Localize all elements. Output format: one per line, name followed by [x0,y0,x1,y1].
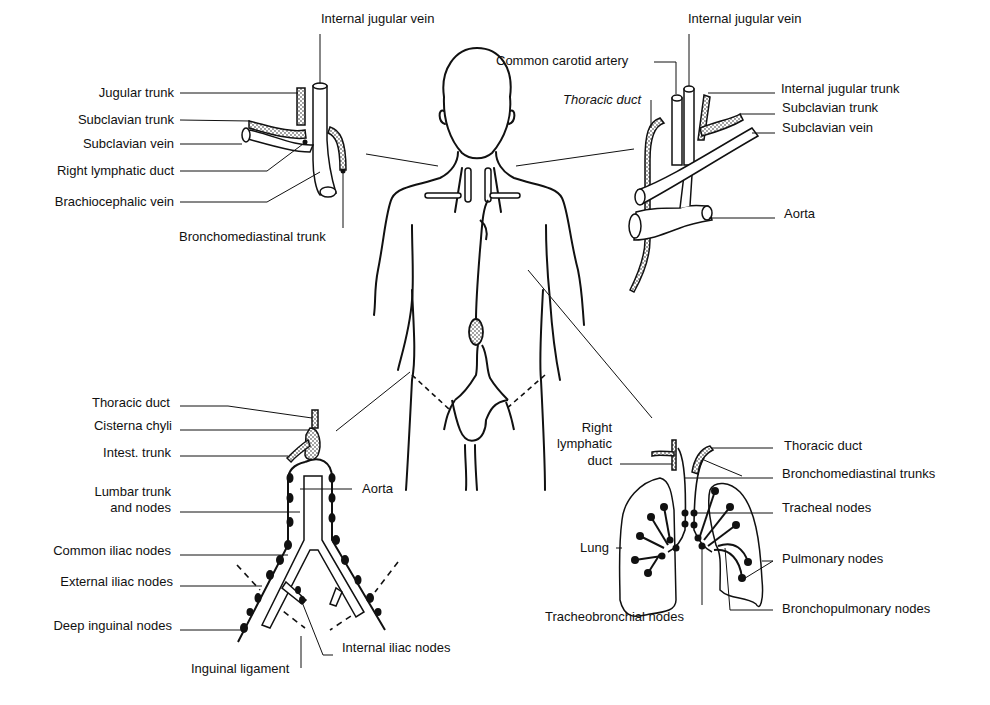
label-lumbar-trunk: Lumbar trunk [94,484,171,499]
label-internal-jugular-trunk: Internal jugular trunk [781,81,900,96]
label-tracheal-nodes: Tracheal nodes [782,500,871,515]
label-thoracic-duct-thorax: Thoracic duct [784,438,862,453]
label-subclavian-vein-right: Subclavian vein [83,136,174,151]
pointer-lines [336,149,652,431]
label-aorta-arch: Aorta [784,206,815,221]
label-internal-jugular-vein-left: Internal jugular vein [688,11,801,26]
label-aorta-abdominal: Aorta [362,481,393,496]
label-subclavian-vein-left: Subclavian vein [782,120,873,135]
label-intest-trunk: Intest. trunk [103,445,171,460]
label-deep-inguinal-nodes: Deep inguinal nodes [53,618,172,633]
label-thoracic-duct-neck: Thoracic duct [563,92,641,107]
label-right-lymphatic-duct-thorax-3: duct [587,453,612,468]
label-right-lymphatic-duct-thorax-1: Right [582,420,612,435]
label-right-lymphatic-duct-thorax-2: lymphatic [557,436,612,451]
label-internal-jugular-vein-right: Internal jugular vein [321,11,434,26]
label-jugular-trunk: Jugular trunk [99,85,174,100]
cisterna-chyli-figure [469,319,483,345]
label-bronchomediastinal-trunk: Bronchomediastinal trunk [179,229,326,244]
label-common-iliac-nodes: Common iliac nodes [53,543,171,558]
abdomen-pelvis-leaders [180,406,352,668]
label-pulmonary-nodes: Pulmonary nodes [782,551,883,566]
neck-left-diagram [629,86,758,292]
label-external-iliac-nodes: External iliac nodes [60,574,173,589]
thorax-diagram [620,440,763,616]
label-brachiocephalic-vein: Brachiocephalic vein [55,194,174,209]
label-subclavian-trunk-left: Subclavian trunk [782,100,878,115]
label-thoracic-duct-abdomen: Thoracic duct [92,395,170,410]
label-right-lymphatic-duct: Right lymphatic duct [57,163,174,178]
abdomen-pelvis-diagram [237,410,398,642]
label-bronchopulmonary-nodes: Bronchopulmonary nodes [782,601,930,616]
inguinal-ligament-figure [412,375,545,410]
label-cisterna-chyli: Cisterna chyli [94,418,172,433]
label-bronchomediastinal-trunks: Bronchomediastinal trunks [782,466,935,481]
label-lumbar-trunk-nodes: and nodes [110,500,171,515]
label-tracheobronchial-nodes: Tracheobronchial nodes [545,609,684,624]
neck-right-diagram [242,83,346,197]
label-lung: Lung [580,540,609,555]
label-internal-iliac-nodes: Internal iliac nodes [342,640,450,655]
label-subclavian-trunk-right: Subclavian trunk [78,112,174,127]
label-common-carotid-artery: Common carotid artery [496,53,628,68]
label-inguinal-ligament: Inguinal ligament [191,661,289,676]
